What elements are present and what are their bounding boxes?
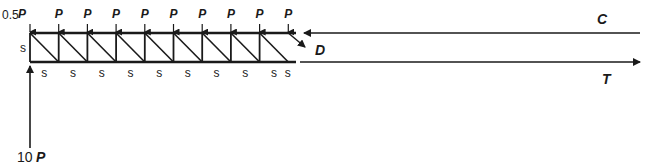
panel-width-label: s <box>242 67 248 79</box>
diagonal-member <box>87 33 116 62</box>
end-load-coefficient: 0.5 <box>2 9 19 21</box>
diagonal-member <box>116 33 145 62</box>
compression-label: C <box>597 12 607 26</box>
panel-width-label: s <box>285 67 291 79</box>
diagonal-member <box>30 33 59 62</box>
force-arrows <box>30 24 640 148</box>
diagonal-member <box>260 33 289 62</box>
panel-load-label: P <box>83 8 91 20</box>
panel-width-label: s <box>214 67 220 79</box>
reaction-symbol: P <box>36 150 45 164</box>
panel-height-label: s <box>20 42 26 54</box>
panel-width-label: s <box>185 67 191 79</box>
panel-load-label: P <box>227 8 235 20</box>
panel-width-label: s <box>41 67 47 79</box>
truss-diagram <box>0 0 655 166</box>
panel-load-label: P <box>256 8 264 20</box>
panel-load-label: P <box>141 8 149 20</box>
panel-width-label: s <box>271 67 277 79</box>
diagonal-member <box>231 33 260 62</box>
panel-width-label: s <box>127 67 133 79</box>
diagonal-member <box>174 33 203 62</box>
panel-load-label: P <box>170 8 178 20</box>
panel-width-label: s <box>99 67 105 79</box>
panel-width-label: s <box>156 67 162 79</box>
diagonal-member <box>202 33 231 62</box>
tension-label: T <box>602 72 611 86</box>
diagonal-label: D <box>315 43 325 57</box>
diagonal-force-arrow <box>288 33 305 47</box>
diagonal-member <box>59 33 88 62</box>
end-load-symbol: P <box>18 8 26 20</box>
diagonal-member <box>145 33 174 62</box>
panel-load-label: P <box>284 8 292 20</box>
panel-load-label: P <box>112 8 120 20</box>
panel-load-label: P <box>55 8 63 20</box>
reaction-coefficient: 10 <box>17 150 33 164</box>
panel-width-label: s <box>70 67 76 79</box>
panel-load-label: P <box>198 8 206 20</box>
truss-members <box>30 33 296 62</box>
